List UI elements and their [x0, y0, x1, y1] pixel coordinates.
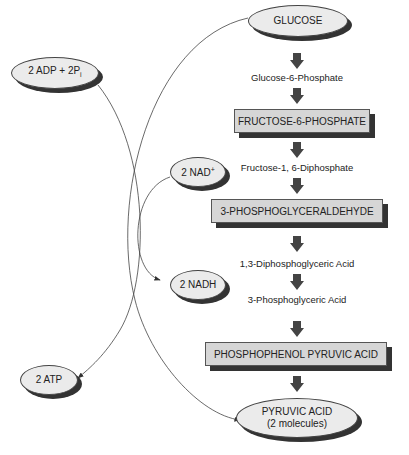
pyruvic-molecules-label: (2 molecules): [267, 418, 327, 430]
down-arrow-icon: [290, 236, 304, 252]
down-arrow-icon: [290, 274, 304, 290]
fructose-6-phosphate-label: FRUCTOSE-6-PHOSPHATE: [238, 116, 366, 127]
pyruvic-acid-label: PYRUVIC ACID: [262, 406, 333, 418]
glucose-6-phosphate-label: Glucose-6-Phosphate: [251, 72, 343, 83]
down-arrow-icon: [290, 376, 304, 392]
nad-label: 2 NAD+: [181, 164, 215, 179]
phosphophenol-pyruvic-acid-box: PHOSPHOPHENOL PYRUVIC ACID: [205, 342, 387, 366]
down-arrow-icon: [290, 178, 304, 194]
phosphophenol-pyruvic-acid-label: PHOSPHOPHENOL PYRUVIC ACID: [214, 349, 378, 360]
pyruvic-acid-node: PYRUVIC ACID (2 molecules): [236, 398, 358, 438]
fructose-6-phosphate-box: FRUCTOSE-6-PHOSPHATE: [234, 109, 370, 133]
adp-label: 2 ADP + 2Pi: [28, 65, 81, 81]
fructose-diphosphate-label: Fructose-1, 6-Diphosphate: [241, 162, 353, 173]
phosphoglyceraldehyde-label: 3-PHOSPHOGLYCERALDEHYDE: [220, 206, 373, 217]
down-arrow-icon: [290, 53, 304, 69]
diphosphoglyceric-acid-label: 1,3-Diphosphoglyceric Acid: [240, 258, 355, 269]
nad-node: 2 NAD+: [170, 157, 226, 187]
glucose-label: GLUCOSE: [274, 15, 323, 27]
adp-node: 2 ADP + 2Pi: [11, 57, 99, 89]
atp-label: 2 ATP: [36, 374, 63, 386]
phosphoglyceraldehyde-box: 3-PHOSPHOGLYCERALDEHYDE: [211, 199, 383, 223]
glucose-node: GLUCOSE: [248, 5, 348, 37]
down-arrow-icon: [290, 321, 304, 337]
nadh-node: 2 NADH: [170, 270, 226, 300]
atp-node: 2 ATP: [20, 365, 78, 395]
down-arrow-icon: [290, 142, 304, 158]
phosphoglyceric-acid-label: 3-Phosphoglyceric Acid: [248, 294, 347, 305]
nadh-label: 2 NADH: [180, 279, 217, 291]
down-arrow-icon: [290, 88, 304, 104]
